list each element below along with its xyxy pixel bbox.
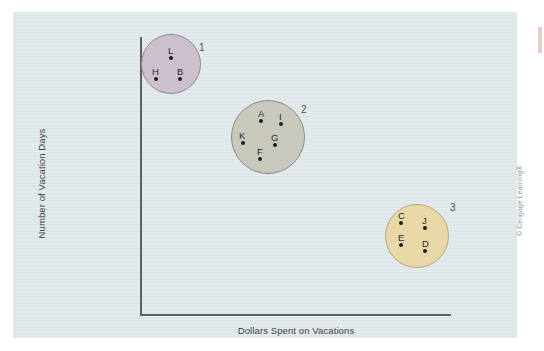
data-point-label-G: G <box>271 132 278 143</box>
x-axis-line <box>140 314 451 316</box>
cluster-number-3: 3 <box>450 202 456 213</box>
figure-page: Number of Vacation Days Dollars Spent on… <box>0 0 544 351</box>
chart-panel: Number of Vacation Days Dollars Spent on… <box>13 12 517 338</box>
data-point-label-E: E <box>398 232 404 243</box>
data-point-A <box>259 119 263 123</box>
cluster-number-2: 2 <box>301 104 307 115</box>
data-point-D <box>423 249 427 253</box>
data-point-G <box>273 143 277 147</box>
data-point-label-L: L <box>168 45 173 56</box>
data-point-L <box>169 56 173 60</box>
cluster-number-1: 1 <box>199 42 205 53</box>
data-point-H <box>154 77 158 81</box>
data-point-K <box>241 141 245 145</box>
y-axis-label: Number of Vacation Days <box>36 99 47 269</box>
data-point-label-F: F <box>257 146 263 157</box>
cluster-circle-3[interactable] <box>385 204 449 268</box>
data-point-label-J: J <box>422 215 427 226</box>
data-point-C <box>399 221 403 225</box>
data-point-label-A: A <box>258 108 264 119</box>
data-point-B <box>178 77 182 81</box>
data-point-label-I: I <box>279 111 282 122</box>
data-point-label-C: C <box>398 210 405 221</box>
data-point-label-K: K <box>239 130 245 141</box>
page-edge-mark <box>538 27 542 53</box>
data-point-E <box>399 243 403 247</box>
cluster-circle-1[interactable] <box>141 34 201 94</box>
data-point-label-B: B <box>177 66 183 77</box>
data-point-J <box>423 226 427 230</box>
data-point-label-D: D <box>422 238 429 249</box>
x-axis-label: Dollars Spent on Vacations <box>141 325 451 336</box>
data-point-I <box>279 122 283 126</box>
data-point-F <box>258 157 262 161</box>
data-point-label-H: H <box>152 66 159 77</box>
copyright-credit: © Cengage Learning® <box>516 126 523 236</box>
y-axis-line <box>140 37 142 316</box>
